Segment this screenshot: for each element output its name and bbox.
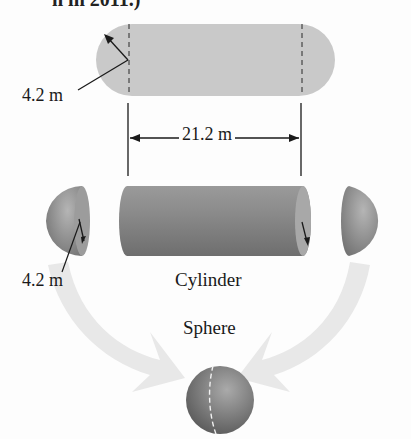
hemisphere-radius-label: 4.2 m [22,270,63,291]
capsule-radius-label: 4.2 m [22,85,63,106]
sphere-shape [186,366,254,434]
cylinder-shape [119,186,311,256]
sphere-label: Sphere [183,317,236,339]
diagram-graphics [0,0,411,439]
cylinder-label: Cylinder [175,269,242,291]
right-curved-arrow [237,262,370,392]
capsule-shape [78,24,335,96]
right-hemisphere [341,186,378,256]
capsule-length-label: 21.2 m [179,124,235,145]
partial-caption-text: n in 2011.) [52,0,140,11]
capsule-decomposition-diagram: n in 2011.) 4.2 m 21.2 m 4.2 m Cylinder … [0,0,411,439]
left-curved-arrow [48,262,185,392]
left-hemisphere [46,186,90,272]
